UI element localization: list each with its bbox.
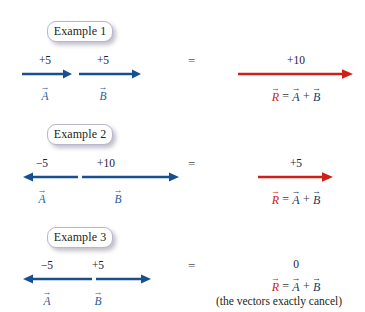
equals-sign-3: =: [188, 258, 195, 274]
result-magnitude-2: +5: [240, 157, 352, 169]
equation-plus-1: +: [301, 89, 313, 103]
vector-a-label-3: →A: [23, 288, 71, 307]
vector-a-magnitude-3: −5: [23, 259, 71, 271]
vector-b-magnitude-3: +5: [74, 259, 122, 271]
equation-equals-1: =: [280, 89, 292, 103]
cancel-note: (the vectors exactly cancel): [196, 295, 362, 307]
vector-a-label-1: →A: [21, 83, 69, 102]
resultant-equation-3: →R = →A + →B: [240, 274, 352, 294]
equation-a-symbol-2: →A: [292, 187, 301, 205]
resultant-arrow-2: [258, 171, 336, 183]
example-row-2: Example 2 −5 +10 →A →B = +5 →R = →A + →B: [0, 105, 365, 212]
example-badge-2: Example 2: [47, 124, 113, 145]
vector-a-magnitude-2: −5: [18, 157, 66, 169]
equals-sign-2: =: [188, 156, 195, 172]
resultant-equation-1: →R = →A + →B: [240, 84, 352, 104]
vector-b-label-3: →B: [74, 288, 122, 307]
equation-equals-3: =: [280, 279, 292, 293]
equals-sign-1: =: [188, 53, 195, 69]
resultant-arrow-1: [238, 68, 356, 80]
example-badge-1: Example 1: [47, 21, 113, 42]
vector-arrows-3: [22, 273, 152, 285]
result-magnitude-1: +10: [240, 54, 352, 66]
result-magnitude-3: 0: [240, 258, 352, 270]
equation-equals-2: =: [280, 192, 292, 206]
equation-b-symbol-2: →B: [312, 187, 321, 205]
equation-plus-2: +: [301, 192, 313, 206]
vector-b-magnitude-2: +10: [82, 157, 130, 169]
equation-b-symbol-3: →B: [312, 274, 321, 292]
vector-arrows-2: [22, 171, 182, 183]
example-badge-3: Example 3: [47, 227, 113, 248]
equation-b-symbol-1: →B: [312, 84, 321, 102]
example-row-1: Example 1 +5 +5 →A →B = +10: [0, 0, 365, 105]
vector-a-label-2: →A: [18, 186, 66, 205]
resultant-equation-2: →R = →A + →B: [240, 187, 352, 207]
equation-a-symbol-1: →A: [292, 84, 301, 102]
vector-arrows-1: [22, 68, 168, 80]
equation-plus-3: +: [301, 279, 313, 293]
resultant-r-symbol-1: →R: [271, 84, 280, 102]
vector-a-magnitude-1: +5: [21, 54, 69, 66]
resultant-r-symbol-2: →R: [271, 187, 280, 205]
vector-addition-figure: Example 1 +5 +5 →A →B = +10: [0, 0, 365, 312]
vector-b-label-1: →B: [79, 83, 127, 102]
equation-a-symbol-3: →A: [292, 274, 301, 292]
example-row-3: Example 3 −5 +5 →A →B = 0 →R = →A + →B (…: [0, 212, 365, 312]
vector-b-magnitude-1: +5: [79, 54, 127, 66]
vector-b-label-2: →B: [94, 186, 142, 205]
resultant-r-symbol-3: →R: [271, 274, 280, 292]
